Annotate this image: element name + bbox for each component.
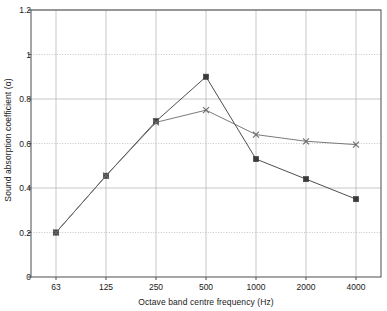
x-tick-label: 2000: [297, 282, 316, 292]
x-tick-label: 250: [149, 282, 163, 292]
x-tick-label: 4000: [347, 282, 366, 292]
data-point-square: [303, 177, 308, 182]
x-tick-label: 125: [99, 282, 113, 292]
data-point-square: [253, 156, 258, 161]
x-tick-label: 63: [51, 282, 60, 292]
data-point-square: [353, 197, 358, 202]
sound-absorption-chart: Sound absorption coefficient (α) 00.20.4…: [0, 0, 387, 311]
x-axis-title: Octave band centre frequency (Hz): [30, 297, 382, 307]
data-point-square: [203, 74, 208, 79]
x-tick-label: 500: [199, 282, 213, 292]
plot-canvas: [0, 0, 387, 311]
x-tick-label: 1000: [247, 282, 266, 292]
